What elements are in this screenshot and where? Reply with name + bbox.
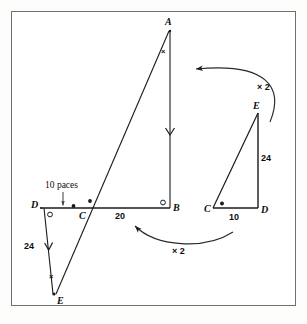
label-point-C-small: C <box>204 204 211 214</box>
vertex-dot-E-left <box>52 292 55 295</box>
scale-arrow-top <box>196 68 275 122</box>
angle-dot-C-left <box>72 204 76 208</box>
segment-A-B <box>166 31 175 208</box>
angle-dot-C-right <box>88 199 92 203</box>
label-point-E-small: E <box>253 101 260 111</box>
right-angle-marker-B <box>161 200 166 205</box>
label-base-10-small: 10 <box>229 213 239 222</box>
diagram-canvas: A B C D E C D E 10 paces 20 24 10 24 × 2… <box>0 0 307 324</box>
label-point-E-main: E <box>57 296 64 306</box>
vertex-dot-A <box>169 30 171 32</box>
segment-D-E-left <box>44 208 53 294</box>
chevron-tick-DE-left <box>45 242 53 250</box>
angle-dot-C-small <box>220 202 224 206</box>
right-angle-marker-D <box>48 212 53 217</box>
label-point-D-small: D <box>261 205 268 215</box>
label-point-D-main: D <box>31 200 38 210</box>
angle-cross-marker-A: × <box>161 48 165 56</box>
label-height-24-small: 24 <box>261 154 271 163</box>
label-base-20: 20 <box>115 212 125 221</box>
scale-arrow-bottom <box>135 226 233 244</box>
vertex-dot-D <box>40 207 42 209</box>
label-scale-bottom: × 2 <box>172 247 185 256</box>
segment-A-E-transversal <box>56 31 169 294</box>
small-triangle-CDE <box>213 113 258 208</box>
label-point-C-main: C <box>79 211 86 221</box>
label-scale-top: × 2 <box>257 83 270 92</box>
label-point-B: B <box>173 203 180 213</box>
angle-cross-marker-E: × <box>49 273 53 281</box>
label-10-paces: 10 paces <box>45 181 78 191</box>
label-height-24-left: 24 <box>24 242 34 251</box>
label-point-A: A <box>165 17 172 27</box>
